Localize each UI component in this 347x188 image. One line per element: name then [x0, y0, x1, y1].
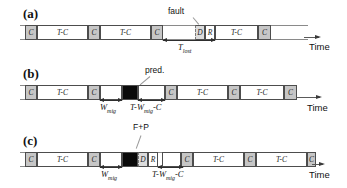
- segment-t-c: T-C: [256, 152, 307, 167]
- time-axis-arrow-c: [312, 164, 323, 165]
- segment-label: C: [28, 156, 33, 164]
- segment-label: C: [154, 29, 159, 37]
- segment-c: C: [244, 152, 256, 167]
- panel-c-label: (c): [23, 133, 37, 149]
- time-axis-label-b: Time: [307, 103, 328, 113]
- measure-label: Tlost: [178, 43, 191, 54]
- segment-label: T-C: [276, 156, 287, 164]
- segment-c: C: [25, 152, 37, 167]
- segment-c: C: [165, 85, 177, 100]
- time-axis-label-c: Time: [309, 170, 330, 180]
- segment-black: [122, 85, 138, 100]
- segment-label: T-C: [213, 156, 224, 164]
- segment-t-c: T-C: [193, 152, 244, 167]
- segment-label: C: [91, 29, 96, 37]
- segment-t-c: T-C: [177, 85, 228, 100]
- segment-c: C: [25, 85, 37, 100]
- segment-label: D: [197, 29, 202, 37]
- segment-label: D: [140, 156, 145, 164]
- measure-label: T-Wmig-C: [130, 103, 162, 114]
- segment-label: C: [91, 156, 96, 164]
- time-axis-arrow-a: [304, 37, 319, 38]
- segment-label: C: [28, 89, 33, 97]
- panel-a-label: (a): [23, 6, 38, 22]
- measure-arrow: [100, 100, 122, 101]
- measure-label: Wmig: [100, 103, 116, 114]
- segment-label: T-C: [57, 89, 68, 97]
- segment-label: T-C: [256, 89, 267, 97]
- segment-label: C: [262, 29, 267, 37]
- segment-label: R: [208, 29, 213, 37]
- segment-label: T-C: [231, 29, 242, 37]
- measure-label: Wmig: [101, 170, 117, 181]
- segment-label: C: [28, 29, 33, 37]
- measure-arrow: [158, 167, 183, 168]
- pred-annotation: pred.: [145, 66, 164, 75]
- time-axis-arrow-b: [296, 97, 320, 98]
- segment-c: C: [88, 25, 100, 40]
- segment-t-c: T-C: [37, 85, 88, 100]
- measure-arrow: [138, 100, 165, 101]
- segment-c: C: [258, 25, 271, 40]
- timeline-band-b: CT-CCCT-CCT-CC: [20, 85, 297, 100]
- segment-label: C: [288, 89, 293, 97]
- fp-leader-line: [136, 135, 142, 148]
- segment-t-c: T-C: [37, 25, 88, 40]
- fault-annotation: fault: [168, 7, 184, 16]
- segment-c: C: [228, 85, 240, 100]
- segment-t-c: T-C: [215, 25, 258, 40]
- timeline-band-c: CT-CCDRCT-CCT-CC: [20, 152, 316, 167]
- panel-b-label: (b): [23, 66, 39, 82]
- segment-label: T-C: [197, 89, 208, 97]
- measure-arrow: [100, 167, 122, 168]
- segment-d: D: [138, 152, 148, 167]
- segment-label: C: [91, 89, 96, 97]
- segment-label: C: [168, 89, 173, 97]
- segment-c: C: [25, 25, 37, 40]
- measure-label: T-Wmig-C: [152, 170, 184, 181]
- timing-diagram-figure: (a) fault CT-CCT-CCDRT-CC Time (b) pred.…: [0, 0, 347, 188]
- segment-black: [122, 152, 138, 167]
- fp-annotation: F+P: [133, 123, 149, 132]
- segment-label: C: [184, 156, 189, 164]
- segment-t-c: T-C: [37, 152, 88, 167]
- time-axis-label-a: Time: [309, 42, 330, 52]
- segment-label: R: [151, 156, 156, 164]
- segment-label: C: [247, 156, 252, 164]
- segment-t-c: T-C: [240, 85, 284, 100]
- segment-label: C: [231, 89, 236, 97]
- segment-label: T-C: [57, 29, 68, 37]
- measure-arrow: [163, 40, 215, 41]
- segment-d: D: [195, 25, 205, 40]
- pred-leader-line: [140, 76, 151, 85]
- segment-label: C: [309, 156, 314, 164]
- segment-label: T-C: [120, 29, 131, 37]
- segment-t-c: T-C: [100, 25, 151, 40]
- segment-label: T-C: [57, 156, 68, 164]
- fault-leader-line: [193, 17, 200, 25]
